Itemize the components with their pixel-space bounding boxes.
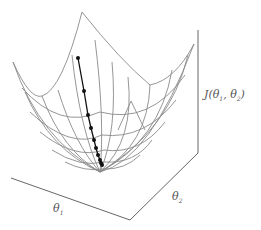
descent-path (76, 56, 104, 167)
theta1-symbol: θ (53, 202, 60, 215)
axes (11, 30, 198, 220)
descent-point (96, 153, 100, 157)
descent-point (94, 146, 98, 150)
descent-point (100, 163, 104, 167)
descent-point (82, 89, 86, 93)
cost-surface-figure (0, 0, 261, 230)
descent-point (92, 138, 96, 142)
z-label-suffix: ) (241, 88, 245, 101)
z-label-theta2: θ (230, 88, 237, 101)
theta2-axis-label: θ2 (172, 190, 182, 204)
descent-point (86, 113, 90, 117)
surface-mesh (13, 12, 194, 172)
descent-point (76, 56, 80, 60)
theta1-sub: 1 (60, 209, 64, 216)
theta1-axis-line (11, 178, 130, 220)
z-label-prefix: J( (204, 88, 213, 101)
z-axis-label: J(θ1, θ2) (204, 88, 245, 102)
theta2-axis-line (130, 153, 198, 220)
descent-point (89, 126, 93, 130)
theta2-sub: 2 (179, 197, 183, 204)
theta2-symbol: θ (172, 190, 179, 203)
theta1-axis-label: θ1 (53, 202, 63, 216)
